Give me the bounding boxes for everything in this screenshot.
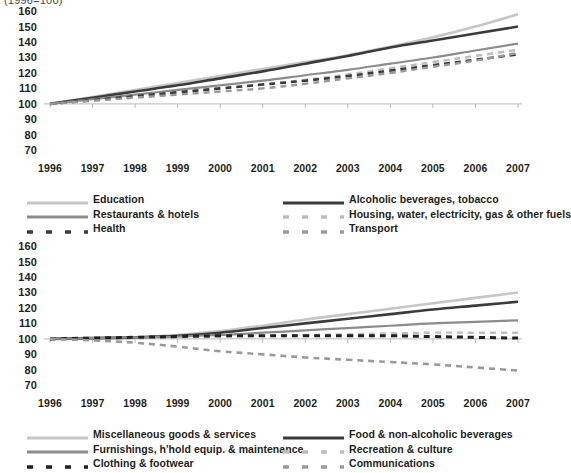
legend-swatch — [26, 208, 89, 219]
x-tick-label: 2003 — [336, 162, 360, 174]
chart-1-x-axis-labels: 1996199719981999200020012002200320042005… — [44, 160, 522, 180]
y-tick-label: 80 — [25, 129, 37, 140]
y-tick-label: 100 — [18, 98, 37, 109]
legend-swatch — [26, 194, 89, 205]
y-tick-label: 110 — [19, 83, 37, 94]
chart-1-y-axis-labels: 160150140130120110100908070 — [0, 8, 40, 158]
y-tick-label: 90 — [25, 349, 37, 360]
y-tick-label: 130 — [18, 287, 37, 298]
y-tick-label: 140 — [18, 37, 37, 48]
legend-label: Education — [93, 193, 144, 205]
legend-label: Restaurants & hotels — [93, 208, 199, 220]
y-tick-label: 160 — [18, 241, 37, 252]
x-tick-label: 2001 — [251, 162, 275, 174]
legend-label: Health — [93, 222, 125, 234]
chart-1-legend: EducationRestaurants & hotelsHealth Alco… — [0, 192, 532, 236]
y-tick-label: 150 — [18, 256, 37, 267]
x-tick-label: 2005 — [421, 397, 445, 409]
legend-item: Furnishings, h'hold equip. & maintenance — [26, 442, 303, 457]
x-tick-label: 1998 — [123, 397, 147, 409]
x-tick-label: 2002 — [293, 397, 317, 409]
x-tick-label: 1998 — [123, 162, 147, 174]
y-tick-label: 150 — [18, 21, 37, 32]
y-tick-label: 100 — [18, 333, 37, 344]
legend-item: Recreation & culture — [282, 442, 513, 457]
x-tick-label: 2003 — [336, 397, 360, 409]
chart-2-x-axis-labels: 1996199719981999200020012002200320042005… — [44, 395, 522, 415]
legend-swatch — [26, 223, 89, 234]
legend-item: Health — [26, 221, 199, 236]
x-tick-label: 1996 — [38, 162, 62, 174]
x-tick-label: 1997 — [81, 397, 105, 409]
chart-2-legend: Miscellaneous goods & servicesFurnishing… — [0, 427, 532, 471]
legend-label: Transport — [349, 222, 398, 234]
chart-2: 160150140130120110100908070 — [0, 243, 532, 393]
chart-2-lines — [44, 243, 522, 393]
x-tick-label: 2002 — [293, 162, 317, 174]
y-tick-label: 80 — [25, 364, 37, 375]
chart-2-plot-area — [44, 243, 522, 393]
data-series-line — [50, 339, 518, 371]
y-tick-label: 140 — [18, 272, 37, 283]
x-tick-label: 2001 — [251, 397, 275, 409]
chart-2-y-axis-labels: 160150140130120110100908070 — [0, 243, 40, 393]
legend-item: Restaurants & hotels — [26, 207, 199, 222]
legend-label: Alcoholic beverages, tobacco — [349, 193, 499, 205]
chart-1-lines — [44, 8, 522, 158]
x-tick-label: 2007 — [506, 162, 530, 174]
x-tick-label: 2007 — [506, 397, 530, 409]
legend-swatch — [282, 223, 345, 234]
y-tick-label: 120 — [18, 302, 37, 313]
x-tick-label: 1997 — [81, 162, 105, 174]
x-tick-label: 1999 — [166, 162, 190, 174]
chart-2-legend-col-left: Miscellaneous goods & servicesFurnishing… — [26, 427, 303, 471]
legend-swatch — [26, 429, 89, 440]
legend-label: Communications — [349, 457, 435, 469]
legend-label: Food & non-alcoholic beverages — [349, 428, 513, 440]
x-tick-label: 2005 — [421, 162, 445, 174]
legend-swatch — [282, 458, 345, 469]
legend-item: Education — [26, 192, 199, 207]
x-tick-label: 1999 — [166, 397, 190, 409]
y-tick-label: 90 — [25, 114, 37, 125]
x-tick-label: 2004 — [378, 162, 402, 174]
legend-swatch — [282, 194, 345, 205]
legend-label: Clothing & footwear — [93, 457, 194, 469]
chart-1-legend-col-right: Alcoholic beverages, tobaccoHousing, wat… — [282, 192, 571, 236]
legend-label: Housing, water, electricity, gas & other… — [349, 208, 571, 220]
y-tick-label: 110 — [19, 318, 37, 329]
legend-item: Transport — [282, 221, 571, 236]
legend-item: Clothing & footwear — [26, 456, 303, 471]
y-tick-label: 70 — [25, 380, 37, 391]
y-tick-label: 70 — [25, 145, 37, 156]
x-tick-label: 2006 — [464, 397, 488, 409]
legend-swatch — [26, 443, 89, 454]
x-tick-label: 2006 — [464, 162, 488, 174]
legend-item: Alcoholic beverages, tobacco — [282, 192, 571, 207]
legend-label: Furnishings, h'hold equip. & maintenance — [93, 443, 303, 455]
chart-1-legend-col-left: EducationRestaurants & hotelsHealth — [26, 192, 199, 236]
legend-item: Miscellaneous goods & services — [26, 427, 303, 442]
chart-1: 160150140130120110100908070 — [0, 8, 532, 158]
legend-label: Miscellaneous goods & services — [93, 428, 256, 440]
y-tick-label: 160 — [18, 6, 37, 17]
legend-swatch — [282, 208, 345, 219]
legend-swatch — [282, 429, 345, 440]
x-tick-label: 2000 — [208, 397, 232, 409]
legend-swatch — [26, 458, 89, 469]
x-tick-label: 2004 — [378, 397, 402, 409]
chart-1-plot-area — [44, 8, 522, 158]
legend-item: Communications — [282, 456, 513, 471]
legend-item: Housing, water, electricity, gas & other… — [282, 207, 571, 222]
y-tick-label: 130 — [18, 52, 37, 63]
x-tick-label: 1996 — [38, 397, 62, 409]
y-tick-label: 120 — [18, 67, 37, 78]
chart-2-legend-col-right: Food & non-alcoholic beveragesRecreation… — [282, 427, 513, 471]
legend-item: Food & non-alcoholic beverages — [282, 427, 513, 442]
legend-label: Recreation & culture — [349, 443, 453, 455]
legend-swatch — [282, 443, 345, 454]
x-tick-label: 2000 — [208, 162, 232, 174]
